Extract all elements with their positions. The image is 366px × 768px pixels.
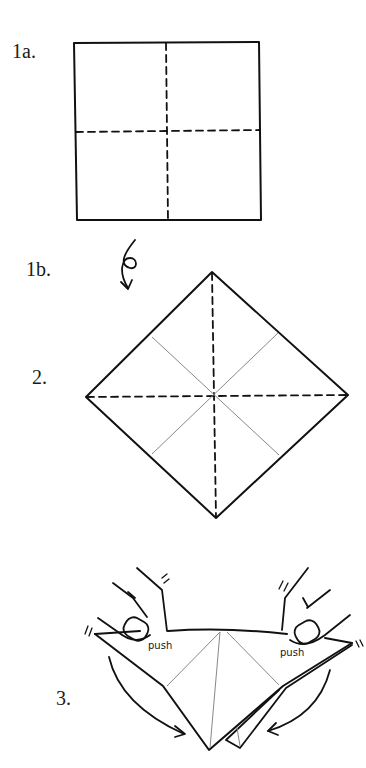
step-2-diamond [86, 272, 348, 518]
left-collapse-arrow-icon [109, 657, 184, 734]
push-label-right: push [280, 647, 304, 658]
step-1a-square [74, 42, 261, 220]
step-3-collapse [85, 568, 363, 750]
push-label-left: push [148, 640, 172, 651]
right-hand-icon [279, 568, 363, 647]
horizontal-diagonal-fold [87, 395, 347, 397]
origami-diagram [0, 0, 366, 768]
horizontal-valley-fold [76, 130, 260, 132]
flip-over-arrow-icon [121, 240, 136, 289]
